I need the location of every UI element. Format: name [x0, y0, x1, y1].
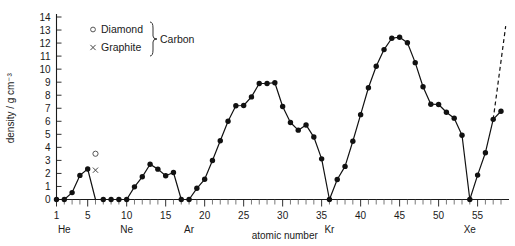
density-line-dashed-extension	[493, 26, 505, 119]
data-point	[54, 197, 59, 202]
data-point	[116, 197, 121, 202]
legend-label-graphite: Graphite	[101, 41, 141, 53]
data-point	[171, 170, 176, 175]
data-point	[77, 173, 82, 178]
y-tick-label: 13	[39, 25, 51, 36]
data-point	[436, 102, 441, 107]
y-tick-label: 4	[45, 142, 51, 153]
x-tick-label: 10	[121, 210, 133, 221]
data-point	[358, 112, 363, 117]
legend-label-diamond: Diamond	[101, 23, 143, 35]
data-point	[296, 127, 301, 132]
x-tick-label: 5	[85, 210, 91, 221]
data-point	[366, 85, 371, 90]
data-point	[225, 119, 230, 124]
y-tick-label: 5	[45, 129, 51, 140]
x-tick-label: 15	[160, 210, 172, 221]
y-tick-label: 12	[39, 38, 51, 49]
y-tick-label: 8	[45, 90, 51, 101]
data-point	[381, 47, 386, 52]
y-tick-label: 0	[45, 194, 51, 205]
noble-gas-label-ar: Ar	[184, 224, 195, 235]
data-point	[62, 197, 67, 202]
x-tick-label: 25	[238, 210, 250, 221]
data-point	[249, 94, 254, 99]
legend-brace	[150, 22, 157, 56]
data-point	[194, 186, 199, 191]
x-tick-label: 35	[316, 210, 328, 221]
density-vs-atomic-number-chart: 01234567891011121314density / g cm⁻³1510…	[0, 0, 515, 246]
data-point	[179, 197, 184, 202]
x-tick-label: 30	[277, 210, 289, 221]
data-point	[498, 109, 503, 114]
density-line	[57, 37, 502, 199]
data-point	[241, 103, 246, 108]
data-point	[210, 158, 215, 163]
x-tick-label: 20	[199, 210, 211, 221]
data-point	[155, 166, 160, 171]
x-tick-label: 40	[355, 210, 367, 221]
y-tick-label: 2	[45, 168, 51, 179]
data-point	[101, 197, 106, 202]
data-point	[124, 197, 129, 202]
data-point	[397, 35, 402, 40]
data-point	[335, 177, 340, 182]
data-point	[405, 40, 410, 45]
data-point	[202, 177, 207, 182]
y-tick-label: 11	[40, 51, 51, 62]
data-point	[444, 110, 449, 115]
data-point	[69, 190, 74, 195]
y-tick-label: 10	[39, 64, 51, 75]
chart-svg: 01234567891011121314density / g cm⁻³1510…	[0, 0, 515, 246]
x-tick-label: 50	[433, 210, 445, 221]
data-point	[233, 103, 238, 108]
y-axis-title: density / g cm⁻³	[5, 73, 16, 144]
data-point	[140, 174, 145, 179]
data-point	[389, 36, 394, 41]
x-tick-label: 55	[472, 210, 484, 221]
diamond-open-circle-marker	[93, 151, 98, 156]
data-point	[452, 115, 457, 120]
data-point	[428, 102, 433, 107]
data-point	[319, 156, 324, 161]
data-point	[374, 64, 379, 69]
data-point	[280, 104, 285, 109]
data-point	[218, 138, 223, 143]
data-point	[342, 164, 347, 169]
y-tick-label: 14	[39, 12, 51, 23]
x-tick-label: 1	[54, 210, 60, 221]
data-point	[257, 81, 262, 86]
noble-gas-label-ne: Ne	[120, 224, 133, 235]
data-point	[272, 80, 277, 85]
noble-gas-label-he: He	[58, 224, 71, 235]
y-tick-label: 3	[45, 155, 51, 166]
legend-group-label-carbon: Carbon	[160, 33, 195, 45]
data-point	[467, 197, 472, 202]
data-point	[491, 117, 496, 122]
data-point	[350, 139, 355, 144]
data-point	[475, 172, 480, 177]
data-point	[303, 122, 308, 127]
x-tick-label: 45	[394, 210, 406, 221]
data-point	[147, 162, 152, 167]
noble-gas-label-kr: Kr	[324, 224, 335, 235]
data-point	[311, 134, 316, 139]
x-axis-title: atomic number	[252, 230, 319, 241]
data-point	[108, 197, 113, 202]
y-tick-label: 7	[45, 103, 51, 114]
data-point	[186, 197, 191, 202]
data-point	[413, 60, 418, 65]
legend-diamond-icon	[91, 27, 96, 32]
data-point	[420, 84, 425, 89]
data-point	[483, 150, 488, 155]
y-tick-label: 1	[45, 181, 51, 192]
data-point	[288, 120, 293, 125]
data-point	[459, 133, 464, 138]
noble-gas-label-xe: Xe	[464, 224, 477, 235]
y-tick-label: 9	[45, 77, 51, 88]
data-point	[264, 81, 269, 86]
data-point	[132, 184, 137, 189]
data-point	[85, 166, 90, 171]
data-point	[327, 197, 332, 202]
y-tick-label: 6	[45, 116, 51, 127]
